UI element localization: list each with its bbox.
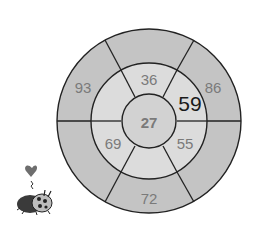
middle-lower-left-value: 69 [105, 135, 122, 152]
middle-top-value: 36 [141, 71, 158, 88]
center-value: 27 [141, 114, 158, 131]
outer-upper-right-value: 86 [205, 79, 222, 96]
middle-lower-right-value: 55 [177, 135, 194, 152]
middle-upper-right-value: 59 [178, 92, 201, 115]
bullseye-diagram: 27 36 59 55 69 93 86 72 [0, 0, 258, 239]
outer-upper-left-value: 93 [75, 79, 92, 96]
ladybug-with-heart-icon [17, 165, 52, 215]
outer-bottom-value: 72 [141, 190, 158, 207]
